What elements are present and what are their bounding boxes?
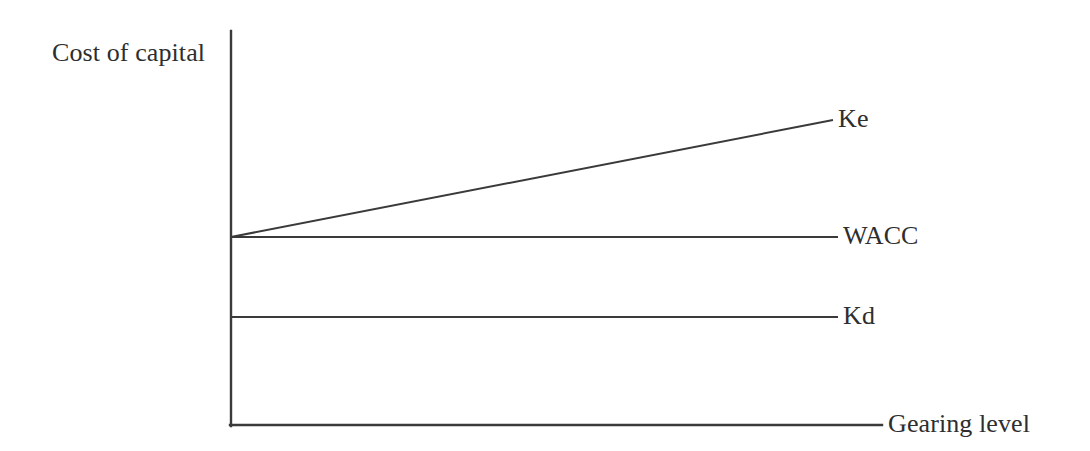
chart-figure: Cost of capital Ke WACC Kd Gearing level [0, 0, 1090, 451]
series-label-wacc: WACC [843, 223, 919, 249]
chart-canvas [0, 0, 1090, 451]
series-line-ke [231, 120, 833, 237]
y-axis-label: Cost of capital [52, 40, 205, 66]
x-axis-label: Gearing level [888, 411, 1030, 437]
series-label-kd: Kd [843, 303, 875, 329]
series-label-ke: Ke [838, 106, 869, 132]
